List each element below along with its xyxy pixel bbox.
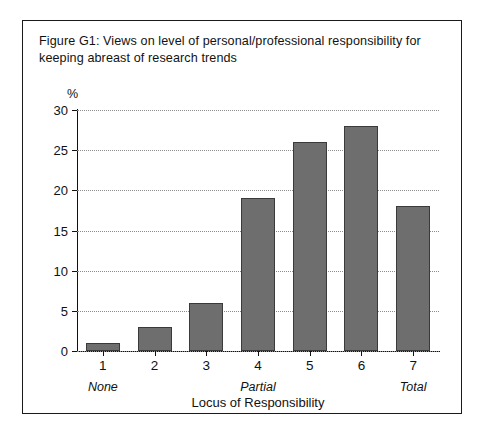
- bar: [86, 343, 120, 351]
- y-gridline: [77, 110, 439, 111]
- x-tick-label: 3: [203, 358, 211, 373]
- bar: [138, 327, 172, 351]
- y-tick-label: 15: [54, 223, 68, 238]
- x-tick-mark: [206, 351, 207, 356]
- x-tick-mark: [310, 351, 311, 356]
- y-tick-mark: [72, 271, 77, 272]
- x-tick-label: 7: [409, 358, 417, 373]
- y-tick-label: 10: [54, 263, 68, 278]
- y-tick-label: 30: [54, 103, 68, 118]
- x-tick-mark: [155, 351, 156, 356]
- y-tick-label: 20: [54, 183, 68, 198]
- x-tick-mark: [103, 351, 104, 356]
- x-axis-group-label: Partial: [240, 380, 275, 394]
- y-tick-mark: [72, 351, 77, 352]
- bar: [396, 206, 430, 351]
- bar: [344, 126, 378, 351]
- bar: [241, 198, 275, 351]
- x-axis-group-label: Total: [400, 380, 427, 394]
- x-axis-group-label: None: [88, 380, 118, 394]
- x-tick-label: 5: [306, 358, 314, 373]
- x-tick-mark: [413, 351, 414, 356]
- y-tick-label: 5: [61, 303, 68, 318]
- bar: [293, 142, 327, 351]
- x-tick-label: 4: [254, 358, 262, 373]
- x-tick-mark: [258, 351, 259, 356]
- y-tick-mark: [72, 311, 77, 312]
- y-gridline: [77, 190, 439, 191]
- y-tick-label: 25: [54, 143, 68, 158]
- bar-chart: % 0510152025301234567NonePartialTotal Lo…: [23, 21, 463, 415]
- figure-panel: Figure G1: Views on level of personal/pr…: [22, 20, 462, 414]
- x-tick-label: 1: [99, 358, 107, 373]
- y-tick-mark: [72, 110, 77, 111]
- x-tick-label: 6: [358, 358, 366, 373]
- x-tick-label: 2: [151, 358, 159, 373]
- y-tick-mark: [72, 190, 77, 191]
- y-tick-label: 0: [61, 344, 68, 359]
- x-axis-title: Locus of Responsibility: [77, 395, 439, 410]
- y-tick-mark: [72, 150, 77, 151]
- y-gridline: [77, 150, 439, 151]
- y-tick-mark: [72, 231, 77, 232]
- x-tick-mark: [361, 351, 362, 356]
- bar: [189, 303, 223, 351]
- plot-area: 0510152025301234567NonePartialTotal: [77, 110, 439, 351]
- y-axis-unit-label: %: [67, 87, 78, 101]
